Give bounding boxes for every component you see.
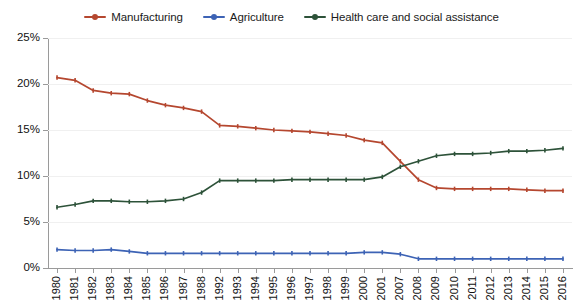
- x-tick-mark: [455, 269, 456, 273]
- x-tick-label: 2008: [412, 276, 423, 300]
- legend-label: Manufacturing: [111, 11, 183, 23]
- x-tick-mark: [184, 269, 185, 273]
- series-group: [57, 146, 563, 209]
- x-tick-mark: [400, 269, 401, 273]
- x-tick-label: 2009: [430, 276, 441, 300]
- x-tick-mark: [165, 269, 166, 273]
- x-tick-mark: [292, 269, 293, 273]
- x-tick-label: 2013: [503, 276, 514, 300]
- x-tick-mark: [274, 269, 275, 273]
- x-tick-label: 1999: [340, 276, 351, 300]
- x-tick-label: 2001: [376, 276, 387, 300]
- y-tick-label: 0%: [2, 261, 40, 273]
- x-tick-label: 2007: [394, 276, 405, 300]
- y-tick-label: 5%: [2, 215, 40, 227]
- x-tick-mark: [129, 269, 130, 273]
- y-tick-label: 25%: [2, 31, 40, 43]
- x-tick-mark: [57, 269, 58, 273]
- x-tick-mark: [328, 269, 329, 273]
- series-group: [57, 75, 563, 193]
- x-tick-mark: [473, 269, 474, 273]
- x-tick-mark: [202, 269, 203, 273]
- x-tick-mark: [436, 269, 437, 273]
- legend-item[interactable]: Health care and social assistance: [304, 11, 499, 23]
- x-tick-label: 1998: [322, 276, 333, 300]
- x-tick-label: 1995: [268, 276, 279, 300]
- x-tick-mark: [111, 269, 112, 273]
- x-tick-label: 2000: [358, 276, 369, 300]
- x-tick-label: 1987: [178, 276, 189, 300]
- x-tick-mark: [220, 269, 221, 273]
- x-tick-label: 2015: [539, 276, 550, 300]
- x-tick-label: 1980: [51, 276, 62, 300]
- x-tick-mark: [147, 269, 148, 273]
- y-tick-label: 20%: [2, 77, 40, 89]
- legend-swatch-icon: [304, 13, 326, 22]
- y-tick-label: 10%: [2, 169, 40, 181]
- line-chart: ManufacturingAgricultureHealth care and …: [0, 0, 583, 308]
- x-tick-mark: [382, 269, 383, 273]
- legend-label: Health care and social assistance: [331, 11, 499, 23]
- x-tick-mark: [527, 269, 528, 273]
- series-line: [57, 78, 563, 191]
- x-tick-label: 2012: [485, 276, 496, 300]
- chart-legend: ManufacturingAgricultureHealth care and …: [0, 8, 583, 26]
- x-tick-label: 1993: [232, 276, 243, 300]
- x-tick-label: 1988: [196, 276, 207, 300]
- y-tick-label: 15%: [2, 123, 40, 135]
- x-tick-mark: [75, 269, 76, 273]
- legend-item[interactable]: Manufacturing: [84, 11, 183, 23]
- x-tick-mark: [238, 269, 239, 273]
- x-tick-mark: [418, 269, 419, 273]
- x-tick-mark: [93, 269, 94, 273]
- x-tick-mark: [509, 269, 510, 273]
- plot-area: [48, 38, 572, 268]
- x-tick-label: 2016: [557, 276, 568, 300]
- legend-swatch-icon: [203, 13, 225, 22]
- x-tick-label: 2014: [521, 276, 532, 300]
- x-tick-mark: [563, 269, 564, 273]
- x-tick-mark: [364, 269, 365, 273]
- x-tick-label: 1984: [123, 276, 134, 300]
- x-tick-label: 1985: [141, 276, 152, 300]
- x-tick-mark: [310, 269, 311, 273]
- x-tick-mark: [256, 269, 257, 273]
- x-tick-label: 1992: [214, 276, 225, 300]
- x-tick-mark: [545, 269, 546, 273]
- x-tick-label: 1981: [69, 276, 80, 300]
- x-tick-label: 1983: [105, 276, 116, 300]
- x-tick-label: 2010: [449, 276, 460, 300]
- legend-swatch-icon: [84, 13, 106, 22]
- x-tick-mark: [346, 269, 347, 273]
- x-tick-mark: [491, 269, 492, 273]
- series-lines: [48, 38, 572, 268]
- x-tick-label: 2011: [467, 276, 478, 300]
- x-tick-label: 1996: [286, 276, 297, 300]
- x-tick-label: 1986: [159, 276, 170, 300]
- series-group: [57, 247, 563, 261]
- x-tick-label: 1994: [250, 276, 261, 300]
- legend-label: Agriculture: [230, 11, 284, 23]
- x-tick-label: 1997: [304, 276, 315, 300]
- x-tick-label: 1982: [87, 276, 98, 300]
- legend-item[interactable]: Agriculture: [203, 11, 284, 23]
